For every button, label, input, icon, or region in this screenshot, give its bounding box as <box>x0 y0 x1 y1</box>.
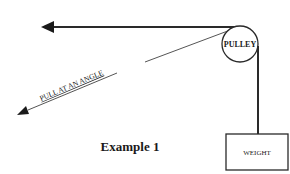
pulley-label: PULLEY <box>224 40 257 49</box>
diagram-title: Example 1 <box>101 139 160 154</box>
angled-pull-arrow: PULL AT AN ANGLE <box>17 68 117 115</box>
pulley-diagram: PULLEY WEIGHT PULL AT AN ANGLE Example 1 <box>0 0 290 174</box>
pulley: PULLEY <box>222 26 258 62</box>
weight-label: WEIGHT <box>243 149 271 157</box>
angled-pull-line <box>28 73 117 110</box>
left-arrowhead-icon <box>41 21 54 33</box>
angle-guide-line <box>145 29 233 62</box>
weight: WEIGHT <box>226 134 288 170</box>
angle-label: PULL AT AN ANGLE <box>38 68 105 103</box>
horizontal-pull-arrow <box>41 21 238 33</box>
angled-arrowhead-icon <box>17 106 29 115</box>
